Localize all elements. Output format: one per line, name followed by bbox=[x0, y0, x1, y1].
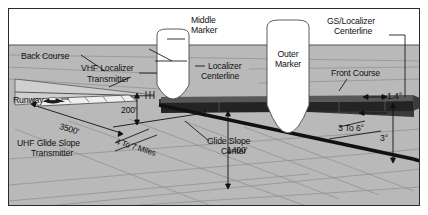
label-localizer-centerline-line2: Centerline bbox=[201, 71, 239, 81]
label-gs-localizer-line1: GS/Localizer bbox=[327, 16, 375, 26]
label-vhf-transmitter: Transmitter bbox=[87, 74, 129, 84]
label-outer-marker-alt: 1400' bbox=[227, 145, 247, 155]
label-vhf-localizer: VHF Localizer bbox=[81, 63, 134, 73]
ils-diagram-root: Back Course VHF Localizer Transmitter Ru… bbox=[0, 0, 428, 215]
label-middle-marker-line2: Marker bbox=[191, 25, 217, 35]
glide-path-line-ext bbox=[413, 159, 420, 161]
label-outer-marker-line2: Marker bbox=[267, 59, 309, 69]
label-uhf-transmitter: Transmitter bbox=[31, 148, 73, 158]
label-decision-height: 200' bbox=[121, 105, 137, 115]
label-localizer-centerline-line1: Localizer bbox=[208, 61, 241, 71]
label-middle-marker-line1: Middle bbox=[191, 15, 216, 25]
outer-marker-cone bbox=[267, 20, 309, 133]
label-gs-localizer-line2: Centerline bbox=[334, 26, 372, 36]
label-outer-marker-line1: Outer bbox=[267, 49, 309, 59]
label-runway: Runway bbox=[13, 95, 44, 105]
middle-marker-cone bbox=[157, 29, 189, 99]
label-localizer-width-angle: 1.4° bbox=[387, 91, 402, 101]
label-glide-slope-range-angle: 3 To 6° bbox=[338, 123, 364, 133]
label-glide-slope-nominal-angle: 3° bbox=[380, 133, 388, 143]
label-front-course: Front Course bbox=[331, 68, 380, 78]
diagram-canvas bbox=[9, 9, 420, 206]
label-back-course: Back Course bbox=[21, 51, 69, 61]
label-uhf-glide-slope: UHF Glide Slope bbox=[17, 138, 80, 148]
diagram-frame: Back Course VHF Localizer Transmitter Ru… bbox=[8, 8, 420, 206]
